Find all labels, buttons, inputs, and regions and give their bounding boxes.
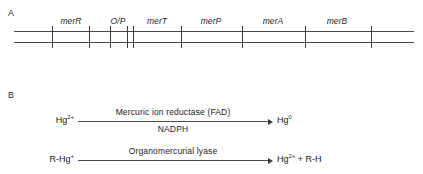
reaction-substrate: R-Hg+ bbox=[50, 154, 74, 164]
gene-map-tick bbox=[52, 26, 53, 48]
reaction-row: R-Hg+Organomercurial lyaseHg2+ + R-H bbox=[0, 141, 423, 171]
reaction-row: Hg2+Mercuric ion reductase (FAD)NADPHHg0 bbox=[0, 102, 423, 132]
gene-map-tick bbox=[110, 26, 111, 48]
reaction-substrate: Hg2+ bbox=[56, 115, 74, 125]
reaction-arrow-head-icon bbox=[268, 119, 273, 125]
gene-label-merb: merB bbox=[327, 16, 348, 26]
gene-map-rail-bottom bbox=[14, 42, 414, 43]
reaction-arrow-head-icon bbox=[268, 158, 273, 164]
gene-label-merp: merP bbox=[201, 16, 222, 26]
gene-map-tick bbox=[371, 26, 372, 48]
gene-map-tick bbox=[181, 26, 182, 48]
gene-map-rail-top bbox=[14, 31, 414, 32]
gene-map-tick bbox=[242, 26, 243, 48]
gene-map-tick bbox=[127, 26, 128, 48]
reaction-arrow-shaft bbox=[78, 160, 268, 161]
reaction-product: Hg0 bbox=[277, 115, 292, 125]
gene-label-mera: merA bbox=[263, 16, 284, 26]
gene-map-tick bbox=[89, 26, 90, 48]
panel-b: B Hg2+Mercuric ion reductase (FAD)NADPHH… bbox=[0, 86, 423, 174]
reaction-cofactor-label: NADPH bbox=[158, 124, 189, 134]
reaction-enzyme-label: Mercuric ion reductase (FAD) bbox=[116, 107, 231, 117]
gene-label-merr: merR bbox=[60, 16, 81, 26]
panel-a-letter: A bbox=[8, 8, 14, 18]
gene-label-o-p: O/P bbox=[111, 16, 126, 26]
reaction-product: Hg2+ + R-H bbox=[277, 154, 322, 164]
gene-map-tick bbox=[133, 26, 134, 48]
reaction-enzyme-label: Organomercurial lyase bbox=[129, 146, 218, 156]
panel-b-letter: B bbox=[8, 90, 14, 100]
gene-label-mert: merT bbox=[147, 16, 167, 26]
gene-map-tick bbox=[305, 26, 306, 48]
panel-a: A merRO/PmerTmerPmerAmerB bbox=[0, 0, 423, 86]
gene-map-diagram bbox=[14, 31, 414, 45]
reaction-arrow-shaft bbox=[78, 121, 268, 122]
